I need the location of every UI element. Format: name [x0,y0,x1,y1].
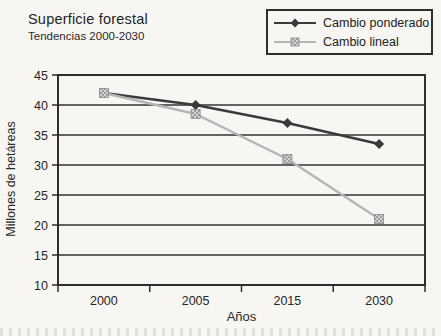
plot-border [58,75,425,285]
x-tick-label: 2005 [182,294,210,308]
series-1-marker [283,155,292,164]
series-1-marker [375,215,384,224]
series-0-marker [282,118,292,128]
y-tick-label: 25 [34,189,48,203]
line-chart-plot: 45403530252015102000200520152030 [0,0,441,336]
y-tick-label: 20 [34,219,48,233]
y-tick-label: 45 [34,69,48,83]
scanned-chart-page: Superficie forestal Tendencias 2000-2030… [0,0,441,336]
x-tick-label: 2000 [90,294,118,308]
y-tick-label: 30 [34,159,48,173]
series-0-marker [374,139,384,149]
series-1-marker [99,89,108,98]
x-axis-title: Años [58,309,425,324]
y-tick-label: 10 [34,279,48,293]
y-tick-label: 35 [34,129,48,143]
y-tick-label: 40 [34,99,48,113]
series-1-marker [191,110,200,119]
x-tick-label: 2030 [365,294,393,308]
series-0-marker [191,100,201,110]
x-tick-label: 2015 [273,294,301,308]
y-axis-title: Millones de hetáreas [4,99,18,259]
series-line-1 [104,93,379,219]
y-tick-label: 15 [34,249,48,263]
